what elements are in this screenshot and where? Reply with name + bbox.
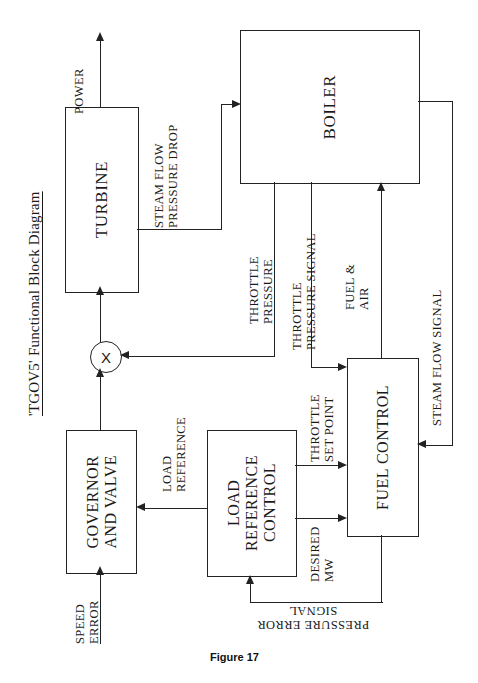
line-load-reference — [144, 508, 208, 509]
signal-throttle-press-sig-label: THROTTLE PRESSURE SIGNAL — [290, 226, 318, 350]
signal-power-label: POWER — [72, 48, 86, 114]
block-governor-and-valve[interactable]: GOVERNOR AND VALVE — [66, 430, 137, 574]
figure-canvas: 'TGOV5' Functional Block Diagram TURBINE… — [0, 0, 478, 683]
line-steam-flow-drop-seg2 — [221, 104, 222, 230]
multiplier-node[interactable]: X — [90, 341, 122, 373]
block-load-reference-control[interactable]: LOAD REFERENCE CONTROL — [207, 430, 297, 577]
signal-load-reference-label: LOAD REFERENCE — [160, 408, 188, 492]
signal-fuel-air-label: FUEL & AIR — [343, 250, 371, 310]
block-boiler[interactable]: BOILER — [240, 30, 420, 184]
signal-steam-flow-drop-label: STEAM FLOW PRESSURE DROP — [152, 110, 180, 228]
block-turbine[interactable]: TURBINE — [65, 107, 139, 293]
arrow-fuel-air — [377, 182, 385, 191]
block-fuel-control-label: FUEL CONTROL — [374, 385, 392, 510]
line-power — [100, 40, 101, 108]
arrow-steam-flow-signal — [417, 440, 426, 448]
multiplier-symbol: X — [101, 349, 111, 366]
signal-pressure-error-sig-label: PRESSURE ERROR SIGNAL — [243, 604, 383, 632]
block-load-reference-control-label: LOAD REFERENCE CONTROL — [225, 455, 279, 551]
arrow-pressure-error — [246, 575, 254, 584]
line-governor-to-multiplier — [100, 375, 101, 431]
arrow-power — [96, 32, 104, 41]
line-throttle-setpoint — [295, 465, 340, 466]
line-steam-flow-drop-seg1 — [137, 229, 222, 230]
block-fuel-control[interactable]: FUEL CONTROL — [347, 358, 419, 537]
arrow-throttle-press-sig — [338, 363, 347, 371]
line-steam-flow-signal-seg3 — [426, 445, 453, 446]
signal-speed-error-label: SPEED ERROR — [73, 586, 101, 644]
line-fuel-air — [381, 190, 382, 359]
figure-caption: Figure 17 — [210, 651, 259, 663]
signal-desired-mw-label: DESIRED MW — [308, 524, 336, 582]
block-boiler-label: BOILER — [320, 75, 339, 139]
block-governor-and-valve-label: GOVERNOR AND VALVE — [84, 455, 120, 549]
arrow-desired-mw — [338, 514, 347, 522]
arrow-speed-error — [96, 566, 104, 575]
figure-title: 'TGOV5' Functional Block Diagram — [26, 186, 43, 416]
arrow-steam-flow-drop — [232, 100, 241, 108]
arrow-load-reference — [136, 503, 145, 511]
block-turbine-label: TURBINE — [92, 161, 111, 238]
line-pressure-error-seg3 — [250, 583, 251, 603]
line-desired-mw — [295, 518, 340, 519]
line-steam-flow-signal-seg1 — [418, 101, 453, 102]
signal-throttle-setpoint-label: THROTTLE SET POINT — [308, 400, 336, 462]
line-pressure-error-seg1 — [381, 535, 382, 603]
arrow-multiplier-to-turbine — [96, 286, 104, 295]
signal-steam-flow-signal-label: STEAM FLOW SIGNAL — [430, 272, 444, 426]
line-throttle-press-sig-seg2 — [311, 367, 340, 368]
arrow-throttle-setpoint — [338, 461, 347, 469]
signal-throttle-pressure-label: THROTTLE PRESSURE — [247, 240, 275, 324]
arrow-governor-to-multiplier — [96, 368, 104, 377]
line-multiplier-to-turbine — [100, 291, 101, 342]
line-throttle-pressure-seg2 — [128, 356, 275, 357]
line-steam-flow-signal-seg2 — [452, 101, 453, 446]
arrow-throttle-pressure — [120, 351, 129, 359]
